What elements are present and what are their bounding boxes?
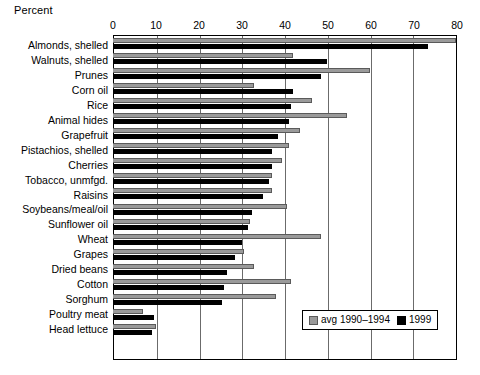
bar-group: [113, 51, 456, 66]
bar-avg-1990-1994: [113, 309, 143, 314]
bar-group: [113, 186, 456, 201]
category-label: Sorghum: [0, 292, 111, 307]
x-tick-label: 30: [236, 19, 248, 31]
category-label: Pistachios, shelled: [0, 143, 111, 158]
bar-avg-1990-1994: [113, 219, 250, 224]
bar-1999: [113, 315, 154, 320]
category-label: Grapefruit: [0, 128, 111, 143]
category-label: Prunes: [0, 68, 111, 83]
axis-title-percent: Percent: [14, 4, 53, 16]
x-tick-label: 40: [279, 19, 291, 31]
legend-label-1999: 1999: [409, 314, 431, 326]
bar-group: [113, 111, 456, 126]
x-tick-label: 70: [408, 19, 420, 31]
bar-avg-1990-1994: [113, 294, 276, 299]
bar-1999: [113, 59, 327, 64]
bar-group: [113, 141, 456, 156]
bar-group: [113, 292, 456, 307]
bar-avg-1990-1994: [113, 38, 456, 43]
bar-1999: [113, 164, 272, 169]
y-axis-category-labels: Almonds, shelledWalnuts, shelledPrunesCo…: [0, 38, 111, 337]
bar-1999: [113, 149, 272, 154]
x-tick-label: 80: [451, 19, 463, 31]
category-label: Grapes: [0, 247, 111, 262]
bar-group: [113, 171, 456, 186]
bar-1999: [113, 240, 242, 245]
bar-1999: [113, 330, 152, 335]
bar-group: [113, 232, 456, 247]
category-label: Wheat: [0, 232, 111, 247]
legend-item-1999: 1999: [397, 314, 431, 326]
x-tick-label: 20: [193, 19, 205, 31]
bar-avg-1990-1994: [113, 173, 272, 178]
bar-avg-1990-1994: [113, 128, 300, 133]
bar-group: [113, 126, 456, 141]
bar-1999: [113, 89, 293, 94]
bar-1999: [113, 270, 227, 275]
bar-1999: [113, 179, 269, 184]
category-label: Corn oil: [0, 83, 111, 98]
bar-avg-1990-1994: [113, 249, 244, 254]
x-axis-tick-labels: 01020304050607080: [113, 19, 457, 33]
bar-avg-1990-1994: [113, 143, 289, 148]
legend-label-avg: avg 1990–1994: [321, 314, 390, 326]
bar-group: [113, 81, 456, 96]
bar-avg-1990-1994: [113, 83, 254, 88]
category-label: Rice: [0, 98, 111, 113]
black-swatch-icon: [397, 316, 406, 325]
category-label: Raisins: [0, 188, 111, 203]
category-label: Cotton: [0, 277, 111, 292]
category-label: Almonds, shelled: [0, 38, 111, 53]
bar-1999: [113, 255, 235, 260]
gray-swatch-icon: [309, 316, 318, 325]
bar-avg-1990-1994: [113, 68, 370, 73]
bar-avg-1990-1994: [113, 204, 287, 209]
x-tick-label: 60: [365, 19, 377, 31]
bar-group: [113, 277, 456, 292]
bar-group: [113, 217, 456, 232]
x-tick-label: 0: [110, 19, 116, 31]
bar-group: [113, 96, 456, 111]
bar-1999: [113, 194, 263, 199]
bar-group: [113, 247, 456, 262]
bars-area: [113, 36, 456, 337]
bar-avg-1990-1994: [113, 234, 321, 239]
category-label: Dried beans: [0, 262, 111, 277]
x-tick-label: 50: [322, 19, 334, 31]
bar-avg-1990-1994: [113, 158, 282, 163]
chart-legend: avg 1990–1994 1999: [302, 310, 438, 330]
bar-1999: [113, 225, 248, 230]
category-label: Poultry meat: [0, 307, 111, 322]
bar-1999: [113, 285, 224, 290]
category-label: Animal hides: [0, 113, 111, 128]
bar-1999: [113, 300, 222, 305]
bar-avg-1990-1994: [113, 113, 347, 118]
legend-item-avg: avg 1990–1994: [309, 314, 390, 326]
bar-group: [113, 262, 456, 277]
bar-avg-1990-1994: [113, 188, 272, 193]
bar-group: [113, 202, 456, 217]
category-label: Tobacco, unmfgd.: [0, 173, 111, 188]
bar-avg-1990-1994: [113, 324, 156, 329]
bar-avg-1990-1994: [113, 53, 293, 58]
bar-chart: Percent 01020304050607080 Almonds, shell…: [0, 0, 480, 375]
bar-avg-1990-1994: [113, 279, 291, 284]
bar-group: [113, 156, 456, 171]
bar-1999: [113, 210, 252, 215]
bar-group: [113, 66, 456, 81]
category-label: Walnuts, shelled: [0, 53, 111, 68]
bar-avg-1990-1994: [113, 98, 312, 103]
bar-group: [113, 36, 456, 51]
bar-avg-1990-1994: [113, 264, 254, 269]
bar-1999: [113, 74, 321, 79]
category-label: Soybeans/meal/oil: [0, 202, 111, 217]
bar-1999: [113, 44, 428, 49]
category-label: Cherries: [0, 158, 111, 173]
category-label: Sunflower oil: [0, 217, 111, 232]
bar-1999: [113, 134, 278, 139]
bar-1999: [113, 119, 289, 124]
bar-1999: [113, 104, 291, 109]
x-tick-label: 10: [150, 19, 162, 31]
category-label: Head lettuce: [0, 322, 111, 337]
